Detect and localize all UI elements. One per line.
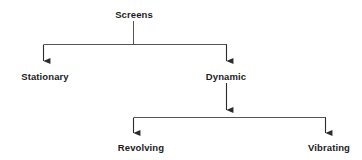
node-label-dynamic: Dynamic (206, 71, 246, 82)
diagram-canvas: Screens Stationary Dynamic Revolving Vib… (0, 0, 362, 160)
node-label-screens: Screens (115, 9, 153, 20)
node-label-revolving: Revolving (118, 142, 164, 153)
node-label-vibrating: Vibrating (308, 142, 350, 153)
node-label-stationary: Stationary (21, 71, 68, 82)
